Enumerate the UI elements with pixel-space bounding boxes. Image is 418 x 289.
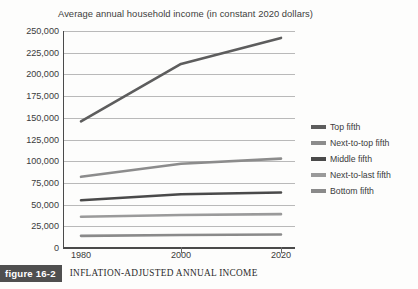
- y-axis-tick-label: 175,000: [11, 91, 59, 101]
- y-axis-tick-label: 250,000: [11, 26, 59, 36]
- y-axis-labels: 025,00050,00075,000100,000125,000150,000…: [7, 31, 59, 248]
- y-axis-tick-label: 100,000: [11, 156, 59, 166]
- y-axis-tick-label: 25,000: [11, 221, 59, 231]
- y-axis-tick-label: 0: [11, 243, 59, 253]
- y-axis-tick-label: 150,000: [11, 113, 59, 123]
- figure-container: Average annual household income (in cons…: [0, 0, 418, 289]
- series-line: [81, 214, 281, 217]
- y-axis-tick-label: 50,000: [11, 200, 59, 210]
- legend-item[interactable]: Middle fifth: [311, 151, 415, 167]
- y-axis-tick-label: 225,000: [11, 48, 59, 58]
- legend-color-swatch: [311, 141, 326, 144]
- legend-label: Middle fifth: [330, 154, 372, 164]
- legend-color-swatch: [311, 189, 326, 192]
- series-lines: [63, 31, 295, 248]
- legend-item[interactable]: Next-to-top fifth: [311, 135, 415, 151]
- x-axis-tick-label: 2000: [171, 250, 191, 260]
- legend-color-swatch: [311, 125, 326, 128]
- legend-color-swatch: [311, 173, 326, 176]
- y-axis-tick-label: 125,000: [11, 135, 59, 145]
- series-line: [81, 38, 281, 121]
- legend-item[interactable]: Top fifth: [311, 119, 415, 135]
- legend-color-swatch: [311, 157, 326, 160]
- caption-title: INFLATION-ADJUSTED ANNUAL INCOME: [70, 268, 258, 278]
- x-axis-tick-label: 1980: [71, 250, 91, 260]
- y-axis-tick-label: 75,000: [11, 178, 59, 188]
- legend-item[interactable]: Bottom fifth: [311, 183, 415, 199]
- plot-area: [63, 31, 295, 248]
- legend-item[interactable]: Next-to-last fifth: [311, 167, 415, 183]
- legend-label: Next-to-last fifth: [330, 170, 391, 180]
- chart-title: Average annual household income (in cons…: [58, 8, 358, 19]
- y-axis-tick-label: 200,000: [11, 69, 59, 79]
- series-line: [81, 235, 281, 236]
- series-line: [81, 192, 281, 200]
- legend-label: Top fifth: [330, 122, 360, 132]
- x-axis-tick-label: 2020: [271, 250, 291, 260]
- chart-legend: Top fifthNext-to-top fifthMiddle fifthNe…: [311, 119, 415, 199]
- legend-label: Bottom fifth: [330, 186, 374, 196]
- series-line: [81, 159, 281, 177]
- figure-number-badge: figure 16-2: [0, 265, 62, 282]
- caption-bar: figure 16-2 INFLATION-ADJUSTED ANNUAL IN…: [0, 264, 258, 282]
- legend-label: Next-to-top fifth: [330, 138, 389, 148]
